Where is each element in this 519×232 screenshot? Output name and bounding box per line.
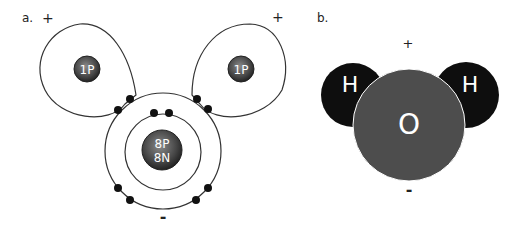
hydrogen-nucleus-right-label: 1P [234,63,249,77]
oxygen-protons-label: 8P [155,137,170,151]
minus-sign: - [406,180,413,199]
water-molecule-diagram: a. + + 1P 1P 8P 8N - [0,0,519,232]
panel-b: b. + H H O - [317,11,499,199]
plus-sign-right: + [272,9,284,25]
oxygen-neutrons-label: 8N [154,151,171,165]
hydrogen-nucleus-left-label: 1P [80,63,95,77]
panel-a: a. + + 1P 1P 8P 8N - [22,9,285,226]
plus-sign-left: + [42,10,54,26]
minus-sign: - [160,207,167,226]
panel-b-label: b. [317,11,328,25]
panel-a-label: a. [22,11,33,25]
oxygen-label: O [398,108,420,141]
hydrogen-left-label: H [342,72,359,97]
hydrogen-right-label: H [462,72,479,97]
plus-sign: + [403,36,414,51]
